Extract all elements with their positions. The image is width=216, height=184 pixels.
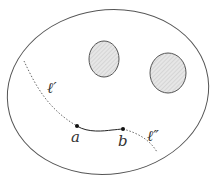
outer-boundary xyxy=(0,0,216,184)
hole-left xyxy=(89,41,119,77)
label-curve-l-double-prime: ℓ″ xyxy=(147,127,159,145)
hole-right xyxy=(150,53,186,93)
diagram-canvas: a b ℓ′ ℓ″ xyxy=(0,0,216,184)
label-point-b: b xyxy=(118,132,128,150)
label-point-a: a xyxy=(71,128,80,146)
path-a-b xyxy=(77,126,123,131)
label-curve-l-prime: ℓ′ xyxy=(47,79,57,97)
point-b xyxy=(121,127,125,131)
